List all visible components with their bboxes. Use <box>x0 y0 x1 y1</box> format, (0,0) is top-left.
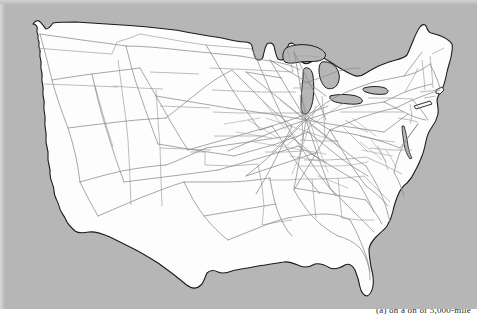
figure-caption-text: (a) on a on of 5,000-mile <box>0 309 471 316</box>
figure-caption: (a) on a on of 5,000-mile <box>0 309 477 316</box>
us-network-map <box>0 0 477 316</box>
figure-container: (a) on a on of 5,000-mile <box>0 0 477 316</box>
